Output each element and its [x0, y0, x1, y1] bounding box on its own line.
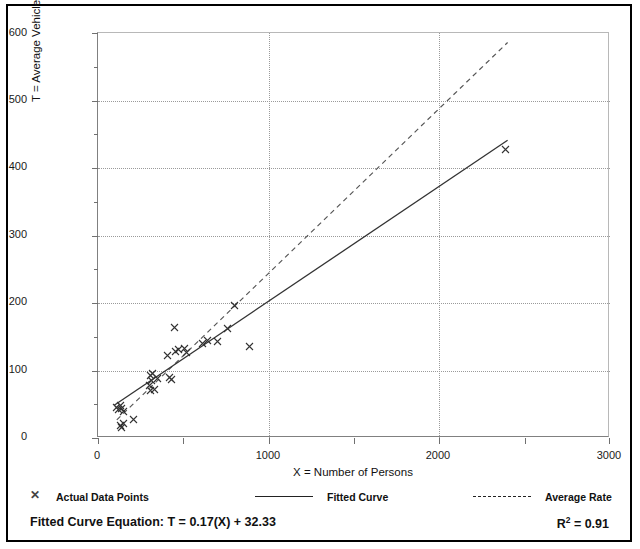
xtick-minor-500 [183, 438, 184, 444]
xtick-minor-2500 [525, 438, 526, 444]
r-squared-value: R2 = 0.91 [557, 515, 609, 531]
legend-label-average-rate: Average Rate [545, 491, 612, 503]
ytick-label-100: 100 [0, 364, 27, 375]
data-point-marker [501, 145, 510, 154]
xtick-label-2000: 2000 [408, 450, 468, 461]
ytick-label-200: 200 [0, 296, 27, 307]
xtick-2000 [439, 438, 440, 444]
x-marker-icon: ✕ [30, 488, 40, 502]
chart-legend: ✕ Actual Data Points Fitted Curve Averag… [30, 487, 615, 507]
legend-label-actual-data-points: Actual Data Points [56, 491, 149, 503]
xtick-0 [98, 438, 99, 444]
xtick-label-3000: 3000 [579, 450, 639, 461]
ytick-label-300: 300 [0, 229, 27, 240]
plot-area [97, 32, 609, 437]
data-point-marker [119, 407, 128, 416]
data-point-marker [245, 342, 254, 351]
data-point-marker [213, 337, 222, 346]
xtick-label-1000: 1000 [238, 450, 298, 461]
data-point-marker [182, 348, 191, 357]
x-axis-title: X = Number of Persons [97, 466, 609, 478]
data-point-marker [170, 323, 179, 332]
scatter-chart: T = Average Vehicle Trip Ends [0, 0, 640, 549]
data-point-marker [119, 419, 128, 428]
data-point-marker [153, 374, 162, 383]
ytick-label-500: 500 [0, 94, 27, 105]
data-point-marker [230, 301, 239, 310]
data-point-marker [167, 375, 176, 384]
data-point-marker [203, 336, 212, 345]
r-squared-prefix: R [557, 517, 566, 531]
y-axis-title: T = Average Vehicle Trip Ends [30, 0, 42, 130]
ytick-label-600: 600 [0, 27, 27, 38]
xtick-label-0: 0 [67, 450, 127, 461]
data-point-marker [129, 415, 138, 424]
ytick-label-0: 0 [0, 431, 27, 442]
chart-footer: Fitted Curve Equation: T = 0.17(X) + 32.… [30, 515, 615, 537]
legend-label-fitted-curve: Fitted Curve [327, 491, 388, 503]
data-point-marker [223, 324, 232, 333]
solid-line-icon [255, 496, 313, 497]
xtick-3000 [609, 438, 610, 444]
fitted-curve-equation: Fitted Curve Equation: T = 0.17(X) + 32.… [30, 515, 276, 529]
dashed-line-icon [473, 496, 531, 497]
xtick-minor-1500 [354, 438, 355, 444]
xtick-1000 [269, 438, 270, 444]
fitted-curve-line [114, 140, 507, 405]
ytick-label-400: 400 [0, 161, 27, 172]
data-point-marker [150, 385, 159, 394]
r-squared-suffix: = 0.91 [570, 517, 609, 531]
